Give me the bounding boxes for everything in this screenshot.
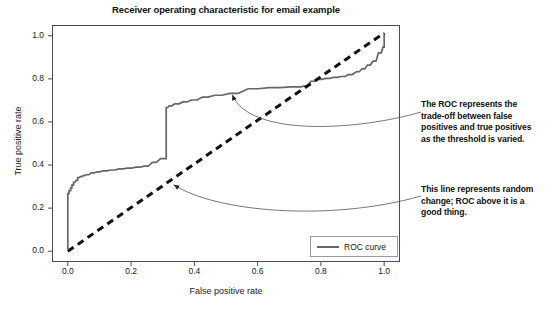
annotation-random-chance: This line represents random change; ROC … [421, 184, 541, 219]
chance-diagonal-line [68, 33, 384, 251]
data-series [68, 33, 384, 251]
legend: ROC curve [310, 236, 398, 257]
leader-line-random-chance [174, 185, 421, 211]
x-tick-label: 1.0 [364, 266, 404, 276]
x-axis-label: False positive rate [52, 286, 400, 296]
y-axis-label: True positive rate [13, 81, 23, 201]
y-tick-label: 0.6 [8, 116, 44, 126]
y-tick-label: 1.0 [8, 30, 44, 40]
annotation-roc-tradeoff: The ROC represents the trade-off between… [421, 99, 541, 145]
arrowhead-roc-tradeoff [232, 95, 237, 101]
arrowhead-random-chance [174, 185, 180, 190]
x-tick-label: 0.8 [301, 266, 341, 276]
x-tick-label: 0.6 [238, 266, 278, 276]
legend-swatch-roc-curve [317, 246, 339, 248]
y-tick-label: 0.4 [8, 159, 44, 169]
x-tick-label: 0.4 [174, 266, 214, 276]
legend-label-roc-curve: ROC curve [344, 242, 386, 252]
x-tick-label: 0.2 [111, 266, 151, 276]
y-tick-label: 0.2 [8, 202, 44, 212]
roc-figure: Receiver operating characteristic for em… [0, 0, 550, 310]
leader-line-roc-tradeoff [232, 95, 421, 127]
y-tick-label: 0.0 [8, 245, 44, 255]
plot-canvas [0, 0, 550, 310]
x-tick-label: 0.0 [48, 266, 88, 276]
y-tick-label: 0.8 [8, 73, 44, 83]
